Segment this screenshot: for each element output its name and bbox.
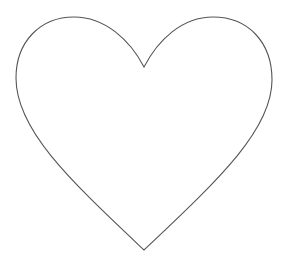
- heart-canvas: [0, 0, 282, 264]
- heart-outline: [16, 17, 272, 250]
- heart-icon: [0, 0, 282, 264]
